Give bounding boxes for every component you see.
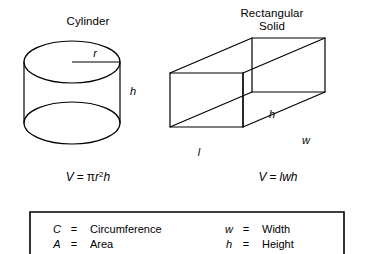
rect-solid-volume-formula: V=lwh: [258, 170, 297, 184]
legend-word-circumference: Circumference: [90, 223, 162, 235]
legend-equals-w: =: [243, 223, 249, 235]
rect-solid-edge-top-right: [243, 38, 325, 73]
cyl-formula-h: h: [104, 170, 111, 184]
rect-solid-edge-bottom-left: [170, 92, 252, 127]
rectangular-solid-figure: Rectangular Solid h l w V=lwh: [170, 7, 325, 184]
rect-formula-eq: =: [269, 170, 276, 184]
svg-text:V=lwh: V=lwh: [258, 170, 297, 184]
rect-formula-lwh: lwh: [280, 170, 298, 184]
svg-text:V=πr2h: V=πr2h: [66, 170, 111, 184]
legend-equals-h: =: [243, 238, 249, 250]
legend-row-width: w = Width: [225, 223, 290, 235]
rect-solid-height-label: h: [269, 108, 275, 120]
figure-canvas: Cylinder r h V=πr2h Rectangular Solid: [0, 0, 374, 254]
cyl-formula-eq: =: [77, 170, 84, 184]
legend-symbol-c: C: [53, 223, 61, 235]
legend-symbol-w: w: [225, 223, 234, 235]
legend-row-circumference: C = Circumference: [53, 223, 162, 235]
legend-word-height: Height: [262, 238, 294, 250]
geometry-figure-sheet: Cylinder r h V=πr2h Rectangular Solid: [0, 0, 374, 254]
cylinder-volume-formula: V=πr2h: [66, 170, 111, 184]
legend-equals-a: =: [71, 238, 77, 250]
legend-word-width: Width: [262, 223, 290, 235]
legend-word-area: Area: [90, 238, 114, 250]
legend-symbol-h: h: [226, 238, 232, 250]
cylinder-radius-label: r: [93, 47, 98, 59]
legend-row-area: A = Area: [52, 238, 114, 250]
rect-solid-width-label: w: [302, 134, 311, 146]
cylinder-bottom-ellipse: [24, 102, 120, 144]
rect-formula-v: V: [258, 170, 267, 184]
rect-solid-title-line2: Solid: [259, 20, 285, 32]
rect-solid-edge-top-left: [170, 38, 252, 73]
legend-symbol-a: A: [52, 238, 60, 250]
rect-solid-title-line1: Rectangular: [240, 7, 303, 19]
rect-solid-length-label: l: [198, 146, 201, 158]
cyl-formula-pi: π: [87, 170, 95, 184]
legend-box: C = Circumference A = Area w = Width h =…: [30, 212, 344, 254]
rect-solid-edge-bottom-right: [243, 92, 325, 127]
cylinder-figure: Cylinder r h V=πr2h: [24, 15, 136, 184]
legend-row-height: h = Height: [226, 238, 294, 250]
cyl-formula-v: V: [66, 170, 75, 184]
legend-equals-c: =: [71, 223, 77, 235]
cylinder-height-label: h: [130, 85, 136, 97]
cylinder-title: Cylinder: [67, 15, 110, 27]
